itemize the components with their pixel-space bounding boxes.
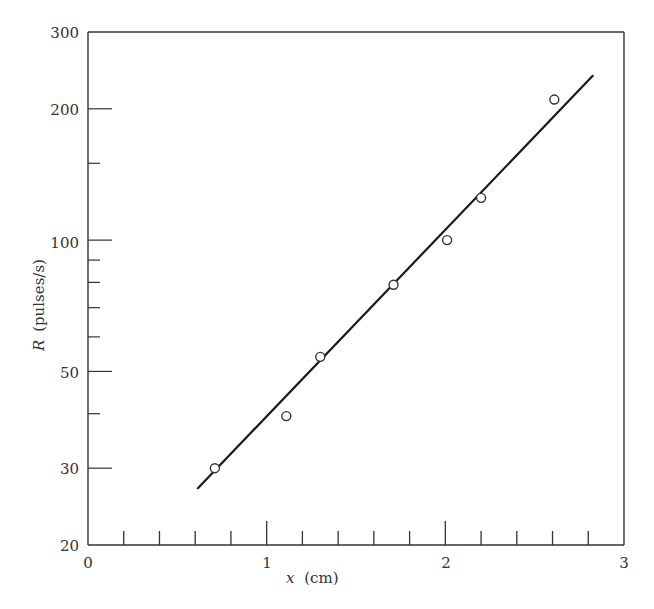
y-axis-var: R	[30, 340, 48, 352]
x-axis-ticks	[124, 521, 589, 545]
x-tick-label-0: 0	[83, 554, 93, 572]
y-tick-label-20: 20	[60, 537, 79, 555]
x-axis-label: x (cm)	[286, 569, 339, 587]
x-axis-unit: (cm)	[304, 569, 338, 587]
data-point	[282, 412, 291, 421]
data-points	[210, 95, 558, 473]
y-tick-label-300: 300	[50, 24, 79, 42]
y-tick-label-200: 200	[50, 101, 79, 119]
y-tick-label-100: 100	[50, 234, 79, 252]
data-point	[389, 280, 398, 289]
data-point	[550, 95, 559, 104]
y-tick-label-30: 30	[60, 460, 79, 478]
y-axis-unit: (pulses/s)	[30, 259, 48, 332]
y-axis-ticks	[88, 109, 112, 468]
y-axis-label: R (pulses/s)	[30, 259, 48, 352]
plot-frame	[88, 32, 624, 545]
data-point	[316, 352, 325, 361]
data-point	[210, 464, 219, 473]
x-axis-var: x	[286, 569, 295, 587]
x-tick-label-3: 3	[619, 554, 629, 572]
data-point	[477, 193, 486, 202]
x-tick-label-2: 2	[441, 554, 451, 572]
chart: 0 1 2 3 20 30 50 100 200 300 x (cm) R (p…	[0, 0, 654, 609]
x-tick-labels: 0 1 2 3	[83, 554, 629, 572]
x-tick-label-1: 1	[262, 554, 272, 572]
data-point	[443, 236, 452, 245]
y-tick-labels: 20 30 50 100 200 300	[50, 24, 79, 555]
y-tick-label-50: 50	[60, 364, 79, 382]
